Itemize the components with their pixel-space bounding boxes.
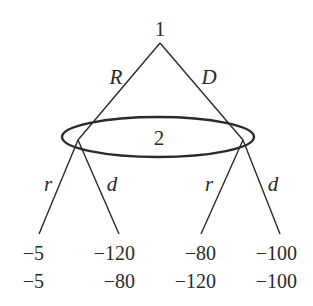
action-label-right-d: d	[268, 172, 279, 196]
payoff-3-p1: −80	[185, 242, 216, 264]
payoff-1-p2: −5	[23, 270, 44, 292]
action-label-left-r: r	[44, 172, 53, 196]
game-tree-diagram: 1 2 R D r d r d −5 −120 −80 −100 −5 −80 …	[0, 0, 313, 306]
infoset-player-label: 2	[154, 126, 165, 150]
payoff-4-p1: −100	[256, 242, 297, 264]
action-label-left-d: d	[107, 172, 118, 196]
payoff-2-p1: −120	[94, 242, 135, 264]
edge-R	[78, 43, 160, 140]
action-label-R: R	[109, 65, 123, 89]
payoff-3-p2: −120	[175, 270, 216, 292]
action-label-D: D	[200, 65, 216, 89]
payoff-1-p1: −5	[23, 242, 44, 264]
edge-D	[160, 43, 243, 140]
payoff-2-p2: −80	[104, 270, 135, 292]
root-player-label: 1	[155, 17, 166, 41]
payoff-4-p2: −100	[256, 270, 297, 292]
action-label-right-r: r	[205, 172, 214, 196]
